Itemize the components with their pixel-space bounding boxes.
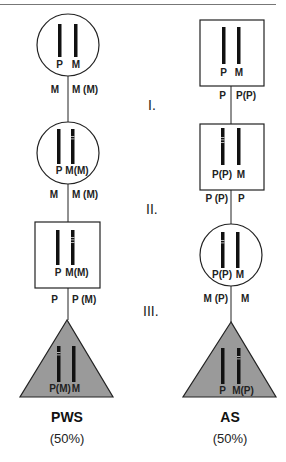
chromosome-maternal [72, 346, 76, 382]
chromosome-label: P [55, 267, 62, 278]
right-affected-offspring: P M(P) [183, 322, 276, 397]
generation-numeral: III. [143, 303, 159, 319]
chromosome-paternal-imprinted [221, 232, 225, 268]
chromosome-maternal-imprinted [237, 348, 241, 384]
imprint-band [71, 136, 75, 137]
syndrome-label: PWS [51, 409, 83, 425]
generation-numeral: II. [146, 201, 158, 217]
right-gen1-male: P M [200, 20, 264, 86]
transmission-label: M [51, 84, 59, 95]
chromosome-paternal [58, 24, 62, 57]
right-gen2-male: P(P) M [200, 124, 264, 190]
chromosome-paternal [221, 348, 225, 384]
female-symbol [37, 14, 99, 76]
chromosome-maternal [74, 24, 78, 57]
transmission-label: M (M) [72, 84, 98, 95]
chromosome-label: P(M) [49, 383, 71, 394]
chromosome-label: P(P) [212, 269, 232, 280]
chromosome-label: M(P) [232, 385, 254, 396]
chromosome-maternal [237, 128, 241, 165]
left-gen2-female: P M(M) [37, 122, 99, 184]
chromosome-label: M [237, 169, 245, 180]
chromosome-label: M [235, 67, 243, 78]
transmission-label: P [238, 193, 245, 204]
imprint-band [221, 137, 225, 138]
chromosome-paternal-imprinted [57, 346, 61, 382]
chromosome-maternal [236, 232, 240, 268]
chromosome-paternal [57, 129, 61, 164]
risk-percentage: (50%) [213, 431, 248, 446]
transmission-label: P(P) [236, 90, 256, 101]
chromosome-label: P [220, 67, 227, 78]
imprint-band [237, 359, 241, 360]
generation-numeral: I. [148, 97, 156, 113]
risk-percentage: (50%) [50, 431, 85, 446]
transmission-label: P [219, 90, 226, 101]
imprint-band [221, 240, 225, 241]
imprint-band [221, 140, 225, 141]
chromosome-maternal [237, 27, 241, 64]
chromosome-paternal-imprinted [221, 128, 225, 165]
chromosome-label: P [56, 165, 63, 176]
imprint-band [237, 356, 241, 357]
pedigree-diagram: P M M M (M) P M(M) M M (M) P M(M) P [0, 0, 286, 462]
chromosome-paternal [222, 27, 226, 64]
transmission-label: M (P) [204, 293, 228, 304]
chromosome-label: P [56, 59, 63, 70]
left-gen1-female: P M [37, 14, 99, 76]
chromosome-label: M [236, 269, 244, 280]
imprint-band [57, 355, 61, 356]
chromosome-label: P [219, 385, 226, 396]
right-gen3-female: P(P) M [200, 224, 262, 286]
imprint-band [57, 352, 61, 353]
imprint-band [221, 243, 225, 244]
chromosome-label: M(M) [65, 267, 88, 278]
transmission-label: M (M) [72, 189, 98, 200]
transmission-label: P [51, 294, 58, 305]
transmission-label: M [50, 189, 58, 200]
transmission-label: P (P) [205, 193, 228, 204]
chromosome-maternal-imprinted [71, 230, 75, 265]
syndrome-label: AS [220, 409, 239, 425]
chromosome-paternal [56, 230, 60, 265]
left-affected-offspring: P(M) M [20, 320, 113, 397]
imprint-band [71, 240, 75, 241]
imprint-band [71, 139, 75, 140]
imprint-band [221, 142, 225, 143]
chromosome-label: P(P) [212, 169, 232, 180]
affected-triangle-symbol [183, 322, 276, 397]
male-symbol [35, 222, 100, 288]
chromosome-label: M [72, 383, 80, 394]
male-symbol [200, 20, 264, 86]
generation-labels: I. II. III. [143, 97, 159, 319]
imprint-band [71, 242, 75, 243]
imprint-band [71, 237, 75, 238]
left-gen3-male: P M(M) [35, 222, 100, 288]
transmission-label: M [241, 293, 249, 304]
right-pedigree: P M P P(P) P(P) M P (P) P P(P) M M ( [183, 20, 276, 446]
male-symbol [200, 124, 264, 190]
chromosome-label: M(M) [65, 165, 88, 176]
chromosome-maternal-imprinted [71, 129, 75, 164]
left-pedigree: P M M M (M) P M(M) M M (M) P M(M) P [20, 14, 113, 446]
transmission-label: P (M) [72, 294, 96, 305]
chromosome-label: M [72, 59, 80, 70]
